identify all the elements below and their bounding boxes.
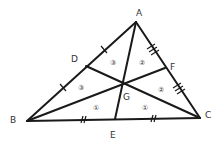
- region-label: ③: [110, 59, 116, 67]
- region-label: ②: [139, 59, 145, 67]
- label-b: B: [10, 115, 16, 125]
- triangle-diagram: A B C D E F G ③ ② ③ ② ① ①: [0, 0, 222, 146]
- median-ae: [115, 22, 136, 119]
- region-label: ①: [142, 104, 148, 112]
- side-bc: [27, 118, 200, 121]
- region-label: ①: [93, 104, 99, 112]
- label-g: G: [123, 92, 130, 102]
- region-label: ②: [158, 86, 164, 94]
- label-c: C: [205, 110, 211, 120]
- label-e: E: [110, 130, 116, 140]
- median-bf: [27, 68, 165, 121]
- label-d: D: [71, 54, 78, 64]
- region-label: ③: [78, 84, 84, 92]
- label-a: A: [136, 8, 143, 18]
- side-ab: [27, 22, 136, 121]
- label-f: F: [170, 62, 175, 72]
- diagram-svg: A B C D E F G ③ ② ③ ② ① ①: [0, 0, 222, 146]
